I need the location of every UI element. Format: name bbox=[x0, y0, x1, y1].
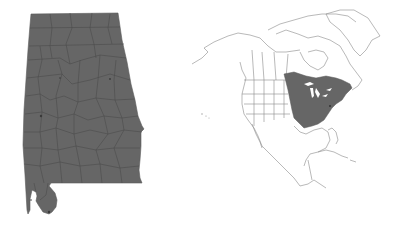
land-outlines bbox=[192, 10, 380, 188]
north-america-map-graphic bbox=[190, 0, 396, 225]
alabama-map-graphic bbox=[0, 0, 190, 225]
species-range-shaded bbox=[284, 72, 352, 128]
north-america-range-map bbox=[190, 0, 396, 225]
alabama-county-map bbox=[0, 0, 190, 225]
hawaii-islands bbox=[201, 113, 209, 118]
coastal-dark-spots bbox=[329, 105, 331, 107]
alabama-state-shape bbox=[23, 13, 144, 214]
